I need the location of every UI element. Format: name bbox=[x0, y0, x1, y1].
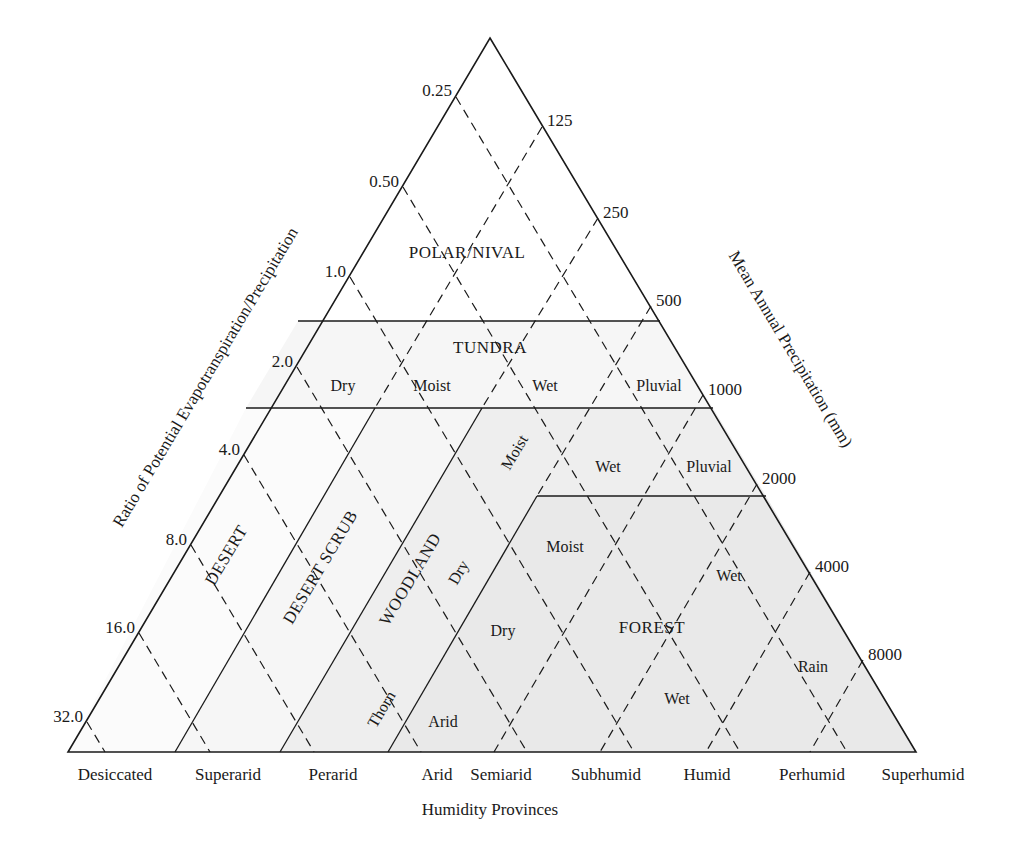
right-axis-title: Mean Annual Precipitation (mm) bbox=[725, 248, 857, 451]
holdridge-triangle-diagram: 0.25 0.50 1.0 2.0 4.0 8.0 16.0 32.0 125 … bbox=[0, 0, 1009, 850]
forest-moist-label: Moist bbox=[546, 538, 584, 555]
left-tick: 16.0 bbox=[105, 618, 135, 637]
right-tick: 2000 bbox=[762, 469, 796, 488]
base-label: Humid bbox=[683, 765, 731, 784]
tundra-wet-label: Wet bbox=[532, 377, 558, 394]
left-tick: 0.50 bbox=[369, 172, 399, 191]
base-label: Superhumid bbox=[881, 765, 965, 784]
left-tick: 0.25 bbox=[422, 81, 452, 100]
base-label: Arid bbox=[421, 765, 453, 784]
left-tick: 4.0 bbox=[219, 440, 240, 459]
right-tick: 125 bbox=[547, 111, 573, 130]
base-label: Perhumid bbox=[779, 765, 846, 784]
right-tick: 500 bbox=[656, 291, 682, 310]
woodland-pluvial-label: Pluvial bbox=[686, 458, 732, 475]
forest-label: FOREST bbox=[619, 618, 685, 637]
forest-rain-label: Rain bbox=[798, 658, 828, 675]
tundra-label: TUNDRA bbox=[453, 338, 527, 357]
forest-arid-label: Arid bbox=[428, 713, 457, 730]
base-label: Superarid bbox=[195, 765, 262, 784]
woodland-wet-label: Wet bbox=[595, 458, 621, 475]
polar-nival-label: POLAR/NIVAL bbox=[409, 243, 526, 262]
left-tick: 1.0 bbox=[325, 262, 346, 281]
right-tick: 1000 bbox=[708, 380, 742, 399]
base-label: Semiarid bbox=[470, 765, 532, 784]
left-tick: 32.0 bbox=[53, 707, 83, 726]
tundra-moist-label: Moist bbox=[413, 377, 451, 394]
tundra-fill bbox=[246, 321, 713, 408]
base-axis-title: Humidity Provinces bbox=[422, 800, 558, 819]
base-label: Perarid bbox=[308, 765, 358, 784]
forest-wet-upper-label: Wet bbox=[716, 567, 742, 584]
right-tick: 4000 bbox=[815, 557, 849, 576]
left-tick: 2.0 bbox=[272, 352, 293, 371]
forest-dry-label: Dry bbox=[491, 622, 516, 640]
base-label: Desiccated bbox=[78, 765, 153, 784]
base-label: Subhumid bbox=[571, 765, 641, 784]
humidity-province-labels: Desiccated Superarid Perarid Arid Semiar… bbox=[78, 765, 965, 784]
left-tick: 8.0 bbox=[166, 530, 187, 549]
right-tick: 8000 bbox=[868, 645, 902, 664]
right-tick: 250 bbox=[603, 203, 629, 222]
forest-wet-lower-label: Wet bbox=[664, 690, 690, 707]
tundra-pluvial-label: Pluvial bbox=[636, 377, 682, 394]
tundra-dry-label: Dry bbox=[331, 377, 356, 395]
